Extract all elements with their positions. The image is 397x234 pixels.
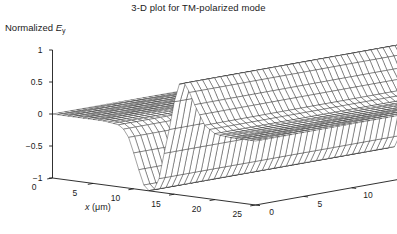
z-tick-label: 0.5 [31, 77, 43, 87]
surface-mesh [53, 40, 397, 190]
x-tick-label: 20 [192, 204, 201, 214]
y-tick-label: 5 [317, 199, 322, 209]
z-tick-label: −0.5 [26, 141, 43, 151]
y-tick-label: 0 [269, 207, 274, 217]
z-tick-label: 0 [38, 109, 43, 119]
x-tick-label: 5 [72, 188, 77, 198]
y-tick-label: 10 [363, 190, 372, 200]
x-tick-label: 25 [232, 209, 241, 219]
plot-canvas [0, 0, 397, 234]
x-tick-label: 0 [32, 182, 37, 192]
z-tick-label: 1 [38, 45, 43, 55]
figure-3d-surface-plot: 3-D plot for TM-polarized mode Normalize… [0, 0, 397, 234]
x-tick-label: 10 [111, 193, 120, 203]
x-tick-label: 15 [151, 199, 160, 209]
x-axis-label: x (μm) [85, 202, 111, 212]
